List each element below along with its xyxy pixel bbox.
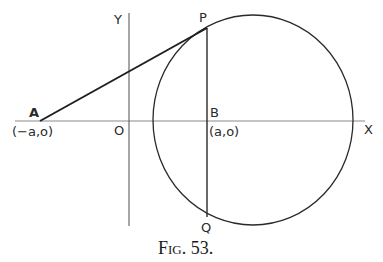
figure-caption: FIG. 53. — [158, 238, 213, 258]
point-a-coord: (−a,o) — [12, 124, 53, 139]
diagram-canvas: Y X O A (−a,o) P B (a,o) Q FIG. 53. — [0, 0, 383, 262]
caption-smallcaps: IG — [168, 242, 182, 257]
tangent-ap — [40, 28, 207, 121]
caption-suffix: . 53. — [182, 238, 214, 258]
point-p-label: P — [199, 10, 207, 25]
y-axis-label: Y — [113, 12, 122, 27]
circle — [153, 15, 353, 225]
point-a-label: A — [29, 105, 39, 120]
x-axis-label: X — [364, 122, 373, 137]
origin-label: O — [114, 123, 124, 138]
caption-prefix: F — [158, 238, 168, 258]
point-q-label: Q — [201, 220, 211, 235]
point-b-label: B — [210, 105, 219, 120]
point-b-coord: (a,o) — [209, 124, 239, 139]
